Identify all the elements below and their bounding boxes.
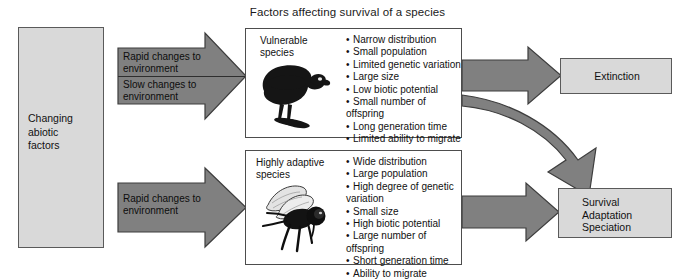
vulnerable-trait-item-label: Large size: [353, 71, 399, 82]
vulnerable-traits-list: Narrow distributionSmall populationLimit…: [339, 34, 464, 146]
arrow-label-rapid-bottom-line1: Rapid changes to: [123, 193, 201, 205]
vulnerable-trait-item: Limited genetic variation: [339, 59, 464, 71]
source-line-2: abiotic: [28, 126, 73, 140]
adaptive-trait-item: Small size: [339, 206, 464, 218]
page-title: Factors affecting survival of a species: [0, 6, 695, 18]
vulnerable-trait-item-label: Small number of offspring: [346, 96, 426, 119]
arrow-vulnerable-to-survival-curved: [462, 95, 596, 196]
adaptive-trait-item-label: High biotic potential: [353, 218, 440, 229]
arrow-label-rapid-top-line2: environment: [123, 63, 201, 75]
fly-silhouette-icon: [254, 175, 334, 257]
adaptive-trait-item-label: Short generation time: [353, 255, 449, 266]
adaptive-trait-item: High degree of genetic variation: [339, 181, 464, 206]
survival-line-1: Survival: [582, 196, 632, 209]
arrow-label-slow-line1: Slow changes to: [123, 79, 196, 91]
adaptive-trait-item-label: Large population: [353, 168, 428, 179]
adaptive-trait-item: Large number of offspring: [339, 230, 464, 255]
vulnerable-trait-item-label: Small population: [353, 46, 427, 57]
source-line-3: factors: [28, 139, 73, 153]
source-box-label: Changing abiotic factors: [28, 112, 73, 153]
vulnerable-trait-item: Narrow distribution: [339, 34, 464, 46]
adaptive-trait-item: Large population: [339, 168, 464, 180]
extinction-outcome-box: Extinction: [560, 58, 672, 94]
adaptive-trait-item: Short generation time: [339, 255, 464, 267]
vulnerable-trait-item-label: Low biotic potential: [353, 84, 438, 95]
diagram-canvas: Factors affecting survival of a species …: [0, 0, 695, 280]
arrow-label-rapid-top: Rapid changes to environment: [123, 51, 201, 76]
arrow-label-slow: Slow changes to environment: [123, 79, 196, 104]
adaptive-name-line1: Highly adaptive: [256, 157, 324, 169]
adaptive-trait-item: High biotic potential: [339, 218, 464, 230]
vulture-silhouette-icon: [254, 51, 332, 131]
survival-line-2: Adaptation: [582, 209, 632, 222]
extinction-label: Extinction: [561, 70, 673, 82]
source-box: Changing abiotic factors: [18, 27, 104, 248]
survival-label: Survival Adaptation Speciation: [582, 196, 632, 234]
vulnerable-trait-item-label: Limited ability to migrate: [353, 133, 461, 144]
adaptive-species-panel: Highly adaptive species: [245, 150, 462, 265]
arrow-vulnerable-to-extinction: [462, 47, 561, 104]
arrow-adaptive-to-survival: [462, 183, 559, 241]
survival-line-3: Speciation: [582, 221, 632, 234]
adaptive-traits-list: Wide distributionLarge populationHigh de…: [339, 156, 464, 280]
adaptive-trait-item-label: Ability to migrate: [353, 268, 427, 279]
adaptive-trait-item-label: Wide distribution: [353, 156, 427, 167]
vulnerable-trait-item: Small population: [339, 46, 464, 58]
arrow-label-rapid-bottom: Rapid changes to environment: [123, 193, 201, 218]
adaptive-trait-item-label: Large number of offspring: [346, 230, 426, 253]
survival-outcome-box: Survival Adaptation Speciation: [558, 188, 672, 238]
vulnerable-trait-item: Long generation time: [339, 121, 464, 133]
adaptive-trait-item-label: Small size: [353, 206, 399, 217]
arrow-label-rapid-bottom-line2: environment: [123, 205, 201, 217]
vulnerable-trait-item: Large size: [339, 71, 464, 83]
vulnerable-trait-item: Small number of offspring: [339, 96, 464, 121]
adaptive-trait-item-label: High degree of genetic variation: [346, 181, 454, 204]
vulnerable-trait-item-label: Limited genetic variation: [353, 59, 461, 70]
vulnerable-trait-item-label: Long generation time: [353, 121, 447, 132]
arrow-label-rapid-top-line1: Rapid changes to: [123, 51, 201, 63]
vulnerable-species-panel: Vulnerable species Narrow distributionSm…: [245, 28, 462, 138]
vulnerable-name-line1: Vulnerable: [260, 35, 307, 47]
adaptive-trait-item: Ability to migrate: [339, 268, 464, 280]
arrow-rapid-slow-to-vulnerable: [118, 33, 246, 119]
vulnerable-trait-item-label: Narrow distribution: [353, 34, 436, 45]
arrow-label-slow-line2: environment: [123, 91, 196, 103]
vulnerable-trait-item: Limited ability to migrate: [339, 133, 464, 145]
vulnerable-trait-item: Low biotic potential: [339, 84, 464, 96]
adaptive-trait-item: Wide distribution: [339, 156, 464, 168]
source-line-1: Changing: [28, 112, 73, 126]
